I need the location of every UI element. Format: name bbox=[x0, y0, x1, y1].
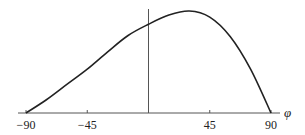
x-tick-label: −90 bbox=[17, 118, 36, 132]
x-tick-label: 45 bbox=[204, 118, 216, 132]
x-tick-label: −45 bbox=[78, 118, 97, 132]
x-tick-labels: −90−454590 bbox=[17, 118, 277, 132]
x-axis-label: φ bbox=[284, 105, 291, 120]
chart: −90−454590 φ bbox=[0, 0, 305, 135]
x-tick-label: 90 bbox=[265, 118, 277, 132]
